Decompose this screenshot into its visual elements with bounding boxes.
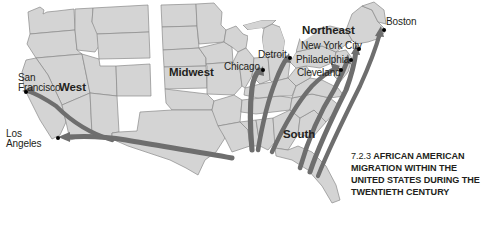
- city-dot-boston: [382, 28, 386, 32]
- state-florida: [275, 146, 340, 203]
- city-dot-los-angeles: [56, 136, 60, 140]
- state-wyoming: [97, 32, 150, 59]
- city-label-chicago: Chicago: [224, 62, 260, 73]
- figure-map-african-american-migration: West Midwest Northeast South San Francis…: [0, 0, 486, 232]
- figure-caption: 7.2.3 AFRICAN AMERICAN MIGRATION WITHIN …: [351, 150, 483, 198]
- state-south-dakota: [162, 26, 199, 50]
- city-dot-new-york-city: [357, 47, 361, 51]
- city-dot-philadelphia: [349, 58, 353, 62]
- figure-caption-number: 7.2.3: [351, 151, 371, 161]
- state-nebraska: [163, 48, 206, 67]
- figure-caption-text: AFRICAN AMERICAN MIGRATION WITHIN THE UN…: [351, 151, 480, 197]
- city-label-boston: Boston: [386, 17, 417, 28]
- region-label-midwest: Midwest: [169, 66, 214, 78]
- city-label-new-york-city: New York City: [301, 41, 362, 52]
- state-arkansas: [212, 95, 242, 126]
- state-montana: [92, 5, 149, 34]
- city-label-cleveland: Cleveland: [297, 68, 341, 79]
- state-oregon: [27, 30, 82, 58]
- city-label-los-angeles: Los Angeles: [6, 129, 41, 149]
- state-colorado: [116, 64, 151, 96]
- city-dot-san-francisco: [24, 90, 28, 94]
- city-dot-detroit: [288, 56, 292, 60]
- city-dot-cleveland: [339, 68, 343, 72]
- region-label-west: West: [59, 81, 86, 93]
- city-label-philadelphia: Philadelphia: [296, 55, 349, 66]
- state-minnesota: [196, 3, 226, 44]
- state-washington: [28, 7, 75, 34]
- city-dot-chicago: [261, 68, 265, 72]
- state-north-dakota: [161, 4, 197, 27]
- region-label-south: South: [283, 128, 315, 140]
- city-label-detroit: Detroit: [258, 50, 287, 61]
- region-label-northeast: Northeast: [302, 24, 355, 36]
- city-label-los-angeles-line2: Angeles: [6, 139, 41, 149]
